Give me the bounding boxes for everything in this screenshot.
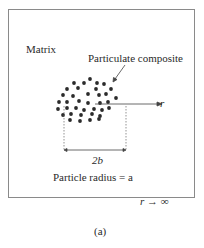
particle-dot: [95, 81, 99, 85]
particle-dot: [69, 112, 73, 116]
radial-axis-arrow: [95, 102, 162, 106]
particle-cluster: [56, 77, 118, 123]
particulate-composite-diagram: [0, 0, 204, 248]
pointer-arrow: [113, 65, 125, 82]
particle-dot: [76, 86, 80, 90]
particle-dot: [61, 93, 65, 97]
figure-caption: (a): [94, 226, 106, 237]
particle-dot: [100, 108, 104, 112]
particle-dot: [107, 106, 111, 110]
diameter-label: 2b: [92, 155, 103, 166]
particle-dot: [79, 113, 83, 117]
diameter-dimension-line: [64, 149, 126, 152]
particle-dot: [57, 100, 61, 104]
particle-dot: [90, 112, 94, 116]
particle-dot: [97, 93, 101, 97]
particle-dot: [65, 100, 69, 104]
particulate-composite-label: Particulate composite: [88, 53, 183, 64]
particle-dot: [88, 77, 92, 81]
particle-dot: [94, 87, 98, 91]
particle-dot: [68, 118, 72, 122]
particle-dot: [114, 96, 118, 100]
particle-dot: [104, 92, 108, 96]
particle-dot: [88, 118, 92, 122]
particle-radius-label: Particle radius = a: [53, 172, 133, 183]
radial-axis-label: r: [160, 98, 164, 109]
particle-dot: [65, 87, 69, 91]
matrix-label: Matrix: [26, 44, 56, 55]
particle-dot: [71, 94, 75, 98]
particle-dot: [92, 107, 96, 111]
particle-dot: [97, 117, 101, 121]
particle-dot: [82, 81, 86, 85]
particle-dot: [106, 100, 110, 104]
particle-dot: [74, 106, 78, 110]
particle-dot: [86, 92, 90, 96]
particle-dot: [65, 106, 69, 110]
particle-dot: [102, 82, 106, 86]
particle-dot: [77, 99, 81, 103]
particle-dot: [82, 108, 86, 112]
particle-dot: [78, 119, 82, 123]
far-field-label: r → ∞: [140, 196, 169, 207]
particle-dot: [56, 107, 60, 111]
particle-dot: [109, 87, 113, 91]
particle-dot: [72, 81, 76, 85]
particle-dot: [86, 101, 90, 105]
diameter-dashed-guides: [64, 106, 126, 150]
